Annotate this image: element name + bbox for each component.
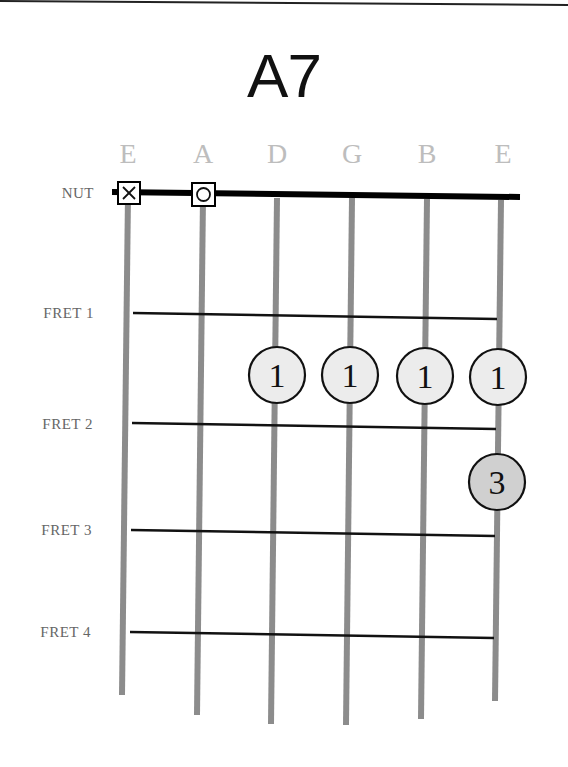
string-d [271,198,277,724]
finger-dot-b: 1 [397,348,453,404]
string-b [421,199,427,719]
finger-dot-high-e-fret1: 1 [470,349,526,405]
finger-number: 1 [490,359,507,396]
string-g [346,198,352,725]
nut-bar [112,192,520,197]
finger-number: 1 [269,357,286,394]
fret-4-line [130,632,494,638]
fretboard-diagram: 1 1 1 1 3 [0,0,568,767]
finger-number: 1 [342,357,359,394]
fret-1-line [133,313,497,319]
finger-dot-d: 1 [249,347,305,403]
open-string-marker [192,183,215,206]
string-a [197,197,203,715]
strings [122,195,501,725]
muted-string-marker [118,182,140,204]
finger-dot-g: 1 [322,347,378,403]
finger-number: 1 [417,358,434,395]
finger-dot-high-e-fret3: 3 [469,454,525,510]
string-low-e [122,195,128,695]
string-high-e [495,200,501,701]
finger-number: 3 [489,464,506,501]
fret-3-line [131,530,495,536]
fret-2-line [132,423,496,429]
